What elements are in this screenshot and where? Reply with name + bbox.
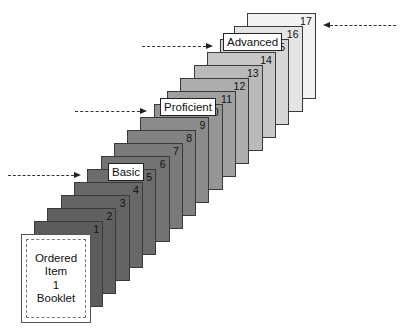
basic-arrow-head-icon	[74, 172, 81, 178]
page-number: 9	[200, 120, 206, 131]
page-number: 8	[186, 133, 192, 144]
page-number: 1	[93, 224, 99, 235]
page-number: 4	[133, 185, 139, 196]
basic-label: Basic	[108, 163, 144, 181]
booklet-line-3: 1	[53, 279, 59, 293]
booklet-dashed-frame: Ordered Item 1 Booklet	[26, 239, 86, 318]
advanced-label: Advanced	[223, 33, 282, 51]
booklet-line-1: Ordered	[35, 252, 77, 266]
basic-arrow-line	[8, 175, 74, 176]
proficient-arrow-line	[75, 111, 140, 112]
bookmark-diagram: 1716151413121110987654321 Ordered Item 1…	[0, 0, 404, 334]
page-number: 7	[173, 146, 179, 157]
right-arrow-head-icon	[323, 22, 330, 28]
right-arrow-line	[330, 25, 396, 26]
page-number: 2	[106, 211, 112, 222]
ordered-item-booklet: Ordered Item 1 Booklet	[21, 234, 91, 323]
advanced-arrow-head-icon	[206, 43, 213, 49]
proficient-arrow-head-icon	[140, 108, 147, 114]
page-number: 11	[221, 94, 232, 105]
page-number: 5	[146, 172, 152, 183]
proficient-label: Proficient	[160, 98, 216, 116]
advanced-arrow-line	[142, 46, 206, 47]
booklet-line-2: Item	[45, 265, 67, 279]
booklet-line-4: Booklet	[37, 292, 75, 306]
page-number: 3	[120, 198, 126, 209]
page-number: 6	[160, 159, 166, 170]
